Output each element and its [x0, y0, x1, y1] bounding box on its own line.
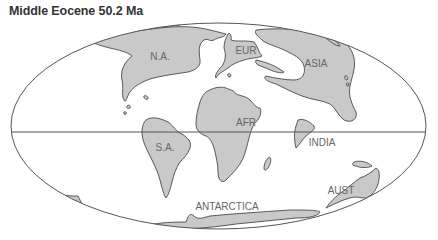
landmass-south-america	[142, 118, 191, 198]
landmass-island	[124, 112, 127, 115]
landmass-middle-east	[256, 60, 284, 73]
landmass-island	[345, 76, 348, 80]
landmass-island	[127, 105, 131, 108]
label-india: INDIA	[309, 137, 336, 148]
label-antarctica: ANTARCTICA	[195, 201, 258, 212]
landmass-antarctica	[145, 210, 320, 230]
landmass-madagascar	[264, 157, 271, 170]
label-africa: AFR	[236, 117, 256, 128]
label-north-america: N.A.	[150, 51, 169, 62]
label-asia: ASIA	[305, 58, 328, 69]
label-australia: AUST	[328, 185, 355, 196]
label-south-america: S.A.	[156, 142, 175, 153]
landmass-antarctic-fragment	[58, 194, 84, 208]
landmass-island	[144, 96, 148, 100]
landmass-island	[228, 74, 231, 77]
paleogeographic-map: N.A. EUR ASIA AFR S.A. INDIA AUST ANTARC…	[0, 0, 438, 240]
landmass-new-zealand	[353, 161, 372, 167]
label-europe: EUR	[235, 45, 256, 56]
landmass-africa	[196, 87, 261, 181]
landmass-island	[346, 83, 349, 86]
